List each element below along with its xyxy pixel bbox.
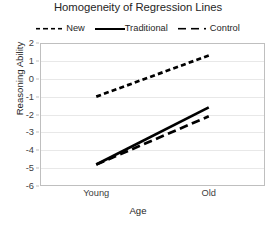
y-tick-mark <box>36 114 39 115</box>
legend-entry-control: Control <box>178 24 240 33</box>
y-tick-mark <box>36 150 39 151</box>
regression-lines-chart: Homogeneity of Regression Lines New Trad… <box>0 0 276 229</box>
y-tick-mark <box>36 43 39 44</box>
x-tick-label: Young <box>83 188 109 198</box>
gridline <box>41 79 264 80</box>
gridline <box>41 150 264 151</box>
x-axis-label: Age <box>0 205 276 216</box>
y-tick-mark <box>36 60 39 61</box>
gridline <box>41 115 264 116</box>
x-tick-label: Old <box>202 188 216 198</box>
gridline <box>41 168 264 169</box>
y-axis-ticks: 210-1-2-3-4-5-6 <box>0 43 38 186</box>
y-tick-mark <box>36 96 39 97</box>
x-axis-ticks: YoungOld <box>40 188 265 202</box>
y-tick-mark <box>36 132 39 133</box>
chart-legend: New Traditional Control <box>0 24 276 33</box>
y-tick-label: -1 <box>26 92 34 102</box>
legend-entry-new: New <box>36 24 85 33</box>
y-tick-mark <box>36 78 39 79</box>
plot-area <box>40 43 265 186</box>
y-tick-label: 1 <box>29 56 34 66</box>
chart-title: Homogeneity of Regression Lines <box>0 1 276 13</box>
legend-label-traditional: Traditional <box>125 24 168 33</box>
solid-line-icon <box>95 24 121 33</box>
dashed-long-line-icon <box>178 24 206 33</box>
y-tick-label: -5 <box>26 163 34 173</box>
y-tick-label: -2 <box>26 110 34 120</box>
y-tick-label: 2 <box>29 38 34 48</box>
y-tick-label: -4 <box>26 145 34 155</box>
dashed-short-line-icon <box>36 24 62 33</box>
gridline <box>41 132 264 133</box>
y-tick-label: -3 <box>26 127 34 137</box>
legend-label-new: New <box>66 24 85 33</box>
legend-label-control: Control <box>210 24 240 33</box>
y-tick-label: 0 <box>29 74 34 84</box>
legend-entry-traditional: Traditional <box>95 24 168 33</box>
y-tick-mark <box>36 186 39 187</box>
y-tick-label: -6 <box>26 181 34 191</box>
gridline <box>41 61 264 62</box>
gridline <box>41 97 264 98</box>
y-tick-mark <box>36 168 39 169</box>
